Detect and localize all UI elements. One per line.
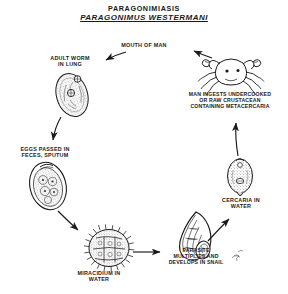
adult-worm-illustration: [51, 69, 94, 120]
label-mouth-of-man: MOUTH OF MAN: [104, 42, 184, 48]
arrow-eggs-to-miracidium: [58, 211, 78, 230]
cercaria-illustration: [228, 159, 253, 196]
label-crab: MAN INGESTS UNDERCOOKED OR RAW CRUSTACEA…: [173, 92, 287, 109]
label-cercaria-line2: WATER: [208, 203, 274, 209]
label-miracidium-line2: WATER: [62, 276, 136, 282]
arrow-mouth-to-worm: [106, 52, 126, 60]
miracidium-illustration: [84, 224, 134, 271]
arrow-cercaria-to-crab: [236, 123, 238, 156]
label-eggs: EGGS PASSED IN FECES, SPUTUM: [6, 146, 84, 158]
label-snail: PARASITE MULTIPLIES AND DEVELOPS IN SNAI…: [152, 248, 240, 265]
arrow-snail-to-cercaria: [208, 219, 229, 241]
label-adult-worm-line2: IN LUNG: [38, 61, 102, 67]
arrow-crab-to-mouth: [194, 51, 212, 58]
life-cycle-diagram: PARAGONIMIASIS PARAGONIMUS WESTERMANI: [0, 0, 288, 294]
label-snail-line3: DEVELOPS IN SNAIL: [152, 260, 240, 266]
arrow-worm-to-eggs: [53, 117, 61, 140]
label-miracidium: MIRACIDIUM IN WATER: [62, 270, 136, 282]
label-crab-line3: CONTAINING METACERCARIA: [173, 104, 287, 110]
label-adult-worm: ADULT WORM IN LUNG: [38, 55, 102, 67]
crab-illustration: [198, 59, 264, 95]
label-eggs-line2: FECES, SPUTUM: [6, 152, 84, 158]
egg-illustration: [25, 158, 72, 213]
label-cercaria: CERCARIA IN WATER: [208, 197, 274, 209]
